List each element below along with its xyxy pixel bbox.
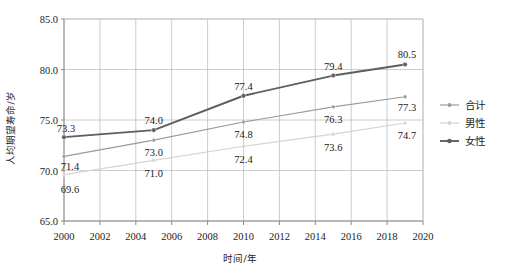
series-point-男性 (62, 173, 66, 177)
y-axis-tick-label: 65.0 (40, 216, 58, 227)
series-point-男性 (152, 159, 156, 163)
x-axis-tick-label: 2000 (54, 231, 75, 242)
series-point-合计 (403, 95, 407, 99)
data-label-女性: 77.4 (234, 81, 253, 92)
x-axis-tick-label: 2012 (269, 231, 290, 242)
x-axis-tick-label: 2016 (341, 231, 362, 242)
life-expectancy-line-chart: 65.070.075.080.085.020002002200420062008… (0, 0, 516, 274)
data-label-男性: 69.6 (61, 184, 79, 195)
x-axis-tick-label: 2018 (377, 231, 398, 242)
data-label-女性: 73.3 (57, 123, 75, 134)
data-label-合计: 77.3 (398, 102, 416, 113)
data-label-女性: 74.0 (145, 115, 163, 126)
x-axis-tick-label: 2014 (305, 231, 327, 242)
y-axis-title: 人均期望寿命/岁 (5, 91, 16, 164)
data-label-合计: 73.0 (145, 147, 163, 158)
x-axis-tick-label: 2008 (197, 231, 218, 242)
series-point-男性 (403, 121, 407, 125)
x-axis-tick-label: 2004 (125, 231, 147, 242)
data-label-男性: 74.7 (398, 130, 416, 141)
data-label-合计: 74.8 (234, 129, 252, 140)
x-axis-tick-label: 2010 (233, 231, 254, 242)
data-label-合计: 76.3 (324, 114, 342, 125)
x-axis-tick-label: 2020 (413, 231, 434, 242)
series-point-女性 (151, 128, 156, 133)
series-point-女性 (331, 73, 336, 78)
series-point-女性 (403, 62, 408, 67)
series-point-合计 (331, 105, 335, 109)
data-label-合计: 71.4 (61, 161, 80, 172)
legend-marker-point-合计 (448, 103, 452, 107)
y-axis-tick-label: 80.0 (40, 65, 58, 76)
series-point-合计 (242, 120, 246, 124)
series-point-男性 (331, 132, 335, 136)
series-point-男性 (242, 144, 246, 148)
y-axis-tick-label: 85.0 (40, 14, 58, 25)
series-point-合计 (62, 154, 66, 158)
legend-marker-point-女性 (447, 139, 452, 144)
y-axis-tick-label: 75.0 (40, 115, 58, 126)
legend-label-男性: 男性 (465, 117, 485, 129)
data-label-女性: 79.4 (324, 61, 343, 72)
legend-marker-point-男性 (448, 121, 452, 125)
series-point-女性 (241, 93, 246, 98)
data-label-男性: 72.4 (234, 154, 253, 165)
x-axis-title: 时间/年 (223, 253, 256, 264)
series-point-女性 (62, 135, 67, 140)
x-axis-tick-label: 2006 (161, 231, 182, 242)
data-label-男性: 73.6 (324, 142, 342, 153)
y-axis-tick-label: 70.0 (40, 166, 58, 177)
legend-label-女性: 女性 (465, 135, 485, 147)
data-label-女性: 80.5 (398, 49, 416, 60)
data-label-男性: 71.0 (145, 168, 163, 179)
legend-label-合计: 合计 (465, 99, 486, 111)
x-axis-tick-label: 2002 (89, 231, 110, 242)
series-point-合计 (152, 138, 156, 142)
chart-canvas: 65.070.075.080.085.020002002200420062008… (0, 0, 516, 274)
